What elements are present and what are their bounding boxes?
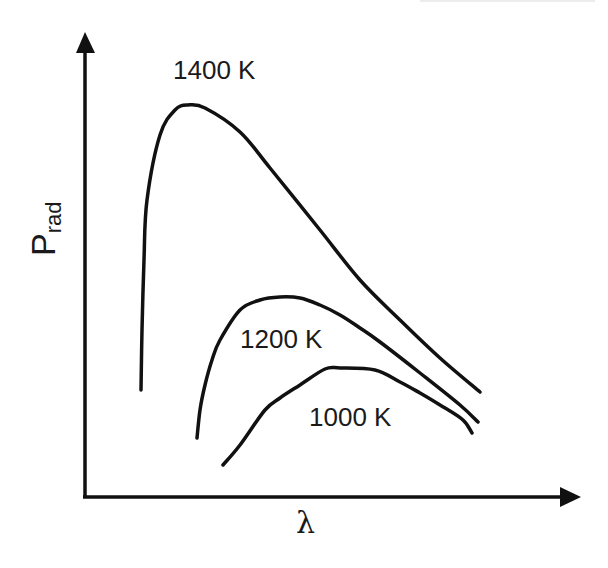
y-axis-arrow-icon	[76, 32, 95, 53]
x-axis-arrow-icon	[560, 487, 581, 507]
curve-label-1000k: 1000 K	[309, 404, 391, 430]
plot-area	[0, 0, 608, 568]
curve-label-1400k: 1400 K	[173, 57, 255, 83]
y-axis-label-subscript: rad	[41, 202, 66, 234]
x-axis-label: λ	[296, 508, 315, 538]
y-axis-label: Prad	[26, 202, 65, 256]
y-axis-label-main: P	[24, 233, 62, 256]
curve-label-1200k: 1200 K	[240, 326, 322, 352]
